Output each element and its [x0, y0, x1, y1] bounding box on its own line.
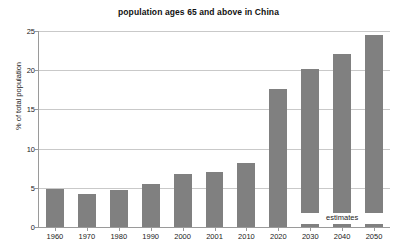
bar-body	[365, 35, 383, 213]
bar-1970	[78, 31, 96, 227]
x-tick-label-2030: 2030	[302, 232, 319, 241]
bar-2001	[206, 31, 224, 227]
y-tick-mark	[35, 31, 39, 32]
estimates-annotation: estimates	[326, 213, 358, 222]
y-tick-label: 5	[31, 183, 35, 192]
x-tick-mark	[151, 227, 152, 231]
bar-body	[174, 174, 192, 227]
x-tick-label-2001: 2001	[206, 232, 223, 241]
x-tick-mark	[342, 227, 343, 231]
chart-container: population ages 65 and above in China % …	[0, 0, 397, 252]
bar-1980	[110, 31, 128, 227]
bar-body	[301, 69, 319, 213]
x-tick-label-2020: 2020	[270, 232, 287, 241]
y-tick-label: 25	[27, 27, 35, 36]
bar-1990	[142, 31, 160, 227]
bar-body	[110, 190, 128, 227]
y-tick-mark	[35, 70, 39, 71]
x-tick-mark	[87, 227, 88, 231]
x-tick-mark	[278, 227, 279, 231]
bar-body	[78, 194, 96, 227]
bar-body	[46, 189, 64, 227]
x-tick-mark	[183, 227, 184, 231]
bar-body	[206, 172, 224, 227]
x-tick-label-2050: 2050	[366, 232, 383, 241]
x-tick-label-1980: 1980	[110, 232, 127, 241]
x-tick-label-1960: 1960	[47, 232, 64, 241]
x-tick-label-1990: 1990	[142, 232, 159, 241]
bar-2010	[237, 31, 255, 227]
x-tick-label-2010: 2010	[238, 232, 255, 241]
y-tick-label: 10	[27, 144, 35, 153]
x-tick-mark	[215, 227, 216, 231]
bar-body	[142, 184, 160, 227]
bar-1960	[46, 31, 64, 227]
y-tick-mark	[35, 227, 39, 228]
bar-2020	[269, 31, 287, 227]
y-tick-label: 20	[27, 66, 35, 75]
x-tick-mark	[246, 227, 247, 231]
y-tick-label: 15	[27, 105, 35, 114]
y-axis-line	[38, 31, 39, 228]
y-tick-mark	[35, 149, 39, 150]
bar-body	[333, 54, 351, 213]
x-tick-mark	[119, 227, 120, 231]
y-axis-title: % of total population	[14, 0, 23, 196]
bar-body	[237, 163, 255, 227]
x-tick-mark	[55, 227, 56, 231]
plot-area: 0510152025 19601970198019902000200120102…	[39, 31, 390, 227]
y-tick-label: 0	[31, 223, 35, 232]
x-tick-label-1970: 1970	[79, 232, 96, 241]
chart-title: population ages 65 and above in China	[0, 7, 397, 17]
bar-2050	[365, 31, 383, 227]
bar-2030	[301, 31, 319, 227]
y-tick-mark	[35, 109, 39, 110]
x-tick-mark	[374, 227, 375, 231]
bar-body	[269, 89, 287, 227]
bar-2040	[333, 31, 351, 227]
bar-2000	[174, 31, 192, 227]
x-tick-label-2000: 2000	[174, 232, 191, 241]
x-tick-mark	[310, 227, 311, 231]
x-tick-label-2040: 2040	[334, 232, 351, 241]
y-tick-mark	[35, 188, 39, 189]
